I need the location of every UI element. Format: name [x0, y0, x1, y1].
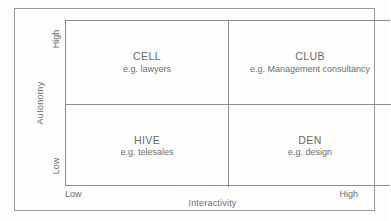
- figure-outer-frame: Autonomy High Low CELL e.g. lawyers CLUB…: [14, 8, 375, 211]
- quadrant-hive: HIVE e.g. telesales: [66, 105, 229, 187]
- quadrant-club-title: CLUB: [295, 50, 325, 63]
- y-axis-title: Autonomy: [32, 20, 48, 186]
- quadrant-den: DEN e.g. design: [229, 105, 391, 187]
- quadrant-hive-title: HIVE: [134, 134, 160, 147]
- quadrant-cell-title: CELL: [133, 50, 161, 63]
- x-axis-title-label: Interactivity: [65, 198, 360, 208]
- y-axis-low-tick-label: Low: [51, 158, 61, 175]
- y-axis-high-tick-label: High: [51, 30, 61, 49]
- y-axis-low-tick: Low: [48, 149, 64, 183]
- y-axis-high-tick: High: [48, 22, 64, 56]
- quadrant-matrix: CELL e.g. lawyers CLUB e.g. Management c…: [65, 20, 390, 186]
- quadrant-den-example: e.g. design: [288, 147, 332, 158]
- quadrant-club: CLUB e.g. Management consultancy: [229, 21, 391, 105]
- quadrant-den-title: DEN: [298, 134, 321, 147]
- quadrant-cell-example: e.g. lawyers: [123, 64, 171, 75]
- quadrant-cell: CELL e.g. lawyers: [66, 21, 229, 105]
- quadrant-hive-example: e.g. telesales: [120, 147, 173, 158]
- quadrant-club-example: e.g. Management consultancy: [250, 64, 370, 75]
- y-axis-title-label: Autonomy: [35, 82, 45, 125]
